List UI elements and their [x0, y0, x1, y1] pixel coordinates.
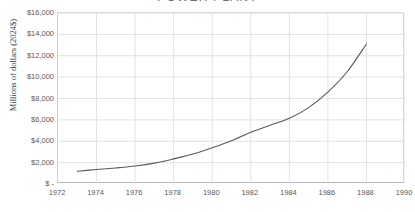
plot-svg	[58, 13, 405, 184]
x-axis-tick-label: 1990	[396, 188, 413, 197]
x-axis-tick-label: 1978	[164, 188, 181, 197]
chart-title: POWER PLANT	[0, 0, 415, 3]
y-axis-tick-label: $8,000	[6, 93, 54, 102]
x-axis-tick-label: 1980	[203, 188, 220, 197]
x-axis-tick-label: 1982	[241, 188, 258, 197]
y-axis-tick-labels: $ -$2,000$4,000$6,000$8,000$10,000$12,00…	[6, 0, 54, 212]
x-axis-tick-labels: 1972197419761978198019821984198619881990	[57, 188, 404, 202]
x-axis-tick-label: 1984	[280, 188, 297, 197]
plot-area	[57, 12, 404, 183]
x-axis-tick-label: 1988	[357, 188, 374, 197]
y-axis-tick-label: $16,000	[6, 8, 54, 17]
y-axis-tick-label: $2,000	[6, 157, 54, 166]
y-axis-tick-label: $ -	[6, 179, 54, 188]
y-axis-tick-label: $6,000	[6, 114, 54, 123]
y-axis-tick-label: $14,000	[6, 29, 54, 38]
y-axis-tick-label: $12,000	[6, 50, 54, 59]
x-axis-tick-label: 1972	[49, 188, 66, 197]
series-line-cumulative-cost	[77, 44, 366, 171]
y-axis-tick-label: $10,000	[6, 72, 54, 81]
y-axis-tick-label: $4,000	[6, 136, 54, 145]
x-axis-tick-label: 1976	[126, 188, 143, 197]
x-axis-tick-label: 1986	[319, 188, 336, 197]
x-axis-tick-label: 1974	[87, 188, 104, 197]
chart-container: POWER PLANT Millions of dollars (2024$) …	[0, 0, 415, 212]
